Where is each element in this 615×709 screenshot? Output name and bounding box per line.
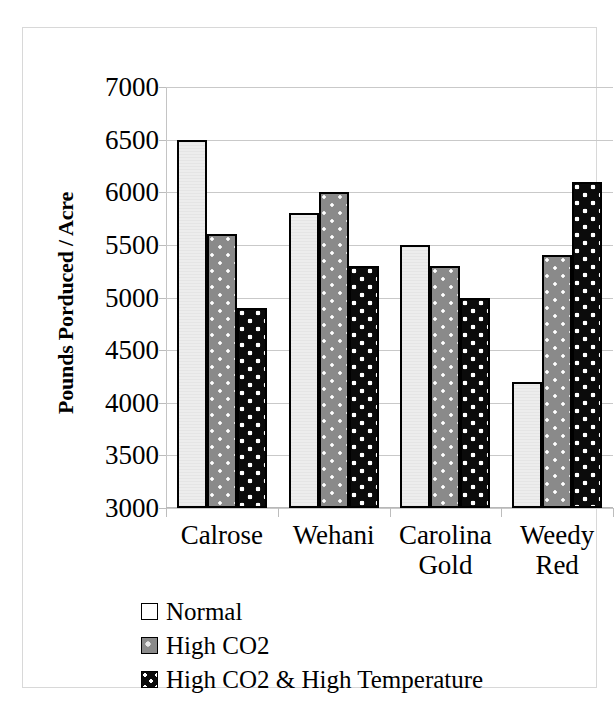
bar[interactable] [460,298,490,509]
legend-item[interactable]: High CO2 [141,628,601,662]
bar-groups [166,87,613,508]
x-axis-tick-marks [166,508,613,518]
x-tick-mark [501,508,502,517]
y-tick-mark [159,245,166,246]
x-axis-label: Calrose [166,520,278,588]
bar[interactable] [572,182,602,508]
x-axis-label-line: Carolina [392,520,500,550]
y-tick-label: 3000 [49,495,159,522]
y-tick-mark [159,403,166,404]
bar[interactable] [430,266,460,508]
bar[interactable] [400,245,430,508]
y-tick-label: 6500 [49,126,159,153]
y-tick-mark [159,298,166,299]
y-tick-label: 6000 [49,179,159,206]
x-axis-label: CarolinaGold [390,520,502,588]
bar-group [390,87,502,508]
x-axis-label: Wehani [278,520,390,588]
y-axis-tick-labels: 700065006000550050004500400035003000 [45,87,159,508]
x-axis-labels: CalroseWehaniCarolinaGoldWeedyRed [166,520,613,588]
bar[interactable] [177,140,207,508]
y-tick-mark [159,455,166,456]
x-axis-label-line: Red [503,550,611,580]
x-axis-label-line: Wehani [280,520,388,550]
y-tick-mark [159,87,166,88]
bar-group [278,87,390,508]
x-tick-mark [613,508,614,517]
y-tick-label: 4500 [49,337,159,364]
x-tick-mark [278,508,279,517]
chart-frame: Pounds Porduced / Acre 70006500600055005… [22,27,597,688]
legend-swatch-icon [141,671,158,688]
legend-item[interactable]: Normal [141,594,601,628]
bar-group [501,87,613,508]
bar[interactable] [237,308,267,508]
y-tick-label: 5000 [49,284,159,311]
y-tick-label: 5500 [49,231,159,258]
x-tick-mark [390,508,391,517]
y-tick-mark [159,508,166,509]
x-axis-label-line: Gold [392,550,500,580]
bar[interactable] [319,192,349,508]
x-axis-label: WeedyRed [501,520,613,588]
legend-swatch-icon [141,637,158,654]
legend-label: High CO2 [166,633,269,658]
legend-swatch-icon [141,603,158,620]
y-tick-label: 4000 [49,389,159,416]
x-axis-label-line: Calrose [168,520,276,550]
chart-legend: NormalHigh CO2High CO2 & High Temperatur… [141,594,601,696]
legend-label: Normal [166,599,242,624]
legend-label: High CO2 & High Temperature [166,667,483,692]
x-axis-label-line: Weedy [503,520,611,550]
legend-item[interactable]: High CO2 & High Temperature [141,662,601,696]
bar[interactable] [512,382,542,508]
y-tick-mark [159,140,166,141]
y-tick-mark [159,192,166,193]
bar-group [166,87,278,508]
y-tick-label: 3500 [49,442,159,469]
y-tick-mark [159,350,166,351]
bar[interactable] [289,213,319,508]
y-tick-label: 7000 [49,74,159,101]
bar[interactable] [349,266,379,508]
x-tick-mark [166,508,167,517]
bar[interactable] [207,234,237,508]
bar[interactable] [542,255,572,508]
